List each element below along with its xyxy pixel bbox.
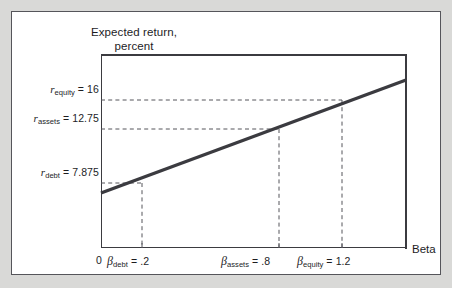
x-axis-label-beta-debt: βdebt = .2	[107, 254, 149, 269]
y-axis-title: Expected return, percent	[59, 26, 209, 53]
y-label-equity-value: 16	[87, 83, 99, 95]
y-axis-title-line2: percent	[59, 40, 209, 54]
x-label-assets-equals: =	[249, 255, 261, 267]
y-axis-label-equity: requity = 16	[12, 83, 99, 97]
x-label-equity-value: 1.2	[336, 255, 351, 267]
y-axis-label-assets: rassets = 12.75	[12, 112, 99, 126]
x-label-debt-subscript: debt	[113, 260, 128, 269]
figure-card: Expected return, percent requity = 16 ra…	[11, 11, 441, 275]
y-axis-label-debt: rdebt = 7.875	[12, 166, 99, 180]
y-label-debt-value: 7.875	[72, 166, 99, 178]
x-label-equity-subscript: equity	[303, 260, 323, 269]
security-market-line	[101, 80, 406, 193]
x-label-assets-value: .8	[261, 255, 270, 267]
y-label-debt-equals: =	[60, 166, 72, 178]
x-axis-label-beta-assets: βassets = .8	[221, 254, 270, 269]
x-axis-label-beta-equity: βequity = 1.2	[297, 254, 351, 269]
security-market-line-chart	[101, 54, 407, 249]
y-label-equity-subscript: equity	[55, 88, 75, 97]
x-label-assets-subscript: assets	[227, 260, 249, 269]
y-label-debt-subscript: debt	[45, 171, 60, 180]
x-axis-origin-label: 0	[96, 254, 102, 266]
y-axis-title-line1: Expected return,	[91, 26, 177, 38]
x-axis-name: Beta	[412, 243, 436, 255]
y-label-assets-equals: =	[60, 112, 72, 124]
y-label-assets-subscript: assets	[38, 117, 60, 126]
y-label-assets-value: 12.75	[72, 112, 99, 124]
x-label-debt-equals: =	[128, 255, 140, 267]
y-label-equity-equals: =	[75, 83, 87, 95]
x-label-debt-value: .2	[140, 255, 149, 267]
x-label-equity-equals: =	[323, 255, 335, 267]
